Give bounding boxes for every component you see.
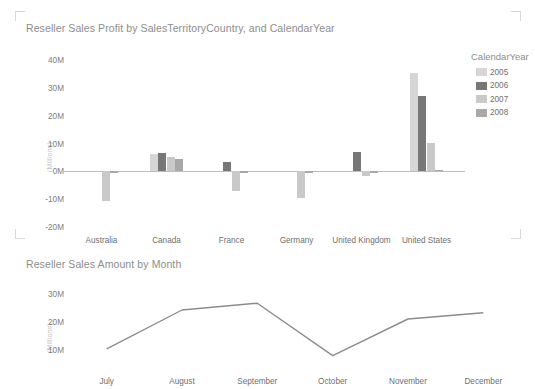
bar-united-kingdom-2008[interactable] xyxy=(370,171,378,173)
bar-canada-2007[interactable] xyxy=(167,157,175,171)
bar-france-2007[interactable] xyxy=(232,171,240,191)
bar-germany-2008[interactable] xyxy=(305,171,313,172)
legend-item-2007[interactable]: 2007 xyxy=(471,93,529,105)
bar-chart-legend: CalendarYear 2005200620072008 xyxy=(471,51,529,120)
line-chart-x-tick: October xyxy=(318,377,347,386)
bar-united-states-2008[interactable] xyxy=(435,170,443,172)
bar-france-2006[interactable] xyxy=(223,162,231,172)
bar-france-2008[interactable] xyxy=(240,171,248,172)
bar-united-kingdom-2006[interactable] xyxy=(353,152,361,171)
bar-united-states-2007[interactable] xyxy=(427,143,435,171)
line-chart-title: Reseller Sales Amount by Month xyxy=(26,258,181,270)
line-chart-y-tick: 10M xyxy=(48,345,64,354)
legend-swatch-icon-2005 xyxy=(476,68,487,76)
line-chart-series-path xyxy=(69,288,521,364)
bar-canada-2005[interactable] xyxy=(150,154,158,171)
bar-chart-x-tick: Germany xyxy=(280,236,314,245)
bar-chart-x-tick: United States xyxy=(402,236,451,245)
legend-item-2006[interactable]: 2006 xyxy=(471,80,529,92)
line-chart-y-tick: 20M xyxy=(48,317,64,326)
line-chart-x-tick: August xyxy=(169,377,195,386)
bar-chart-title: Reseller Sales Profit by SalesTerritoryC… xyxy=(26,22,335,34)
legend-swatch-icon-2007 xyxy=(476,95,487,103)
legend-title: CalendarYear xyxy=(471,51,529,62)
bar-chart-y-tick: 40M xyxy=(48,56,64,65)
line-chart-y-tick: 30M xyxy=(48,289,64,298)
bar-united-kingdom-2007[interactable] xyxy=(362,171,370,176)
bar-chart-y-tick: -10M xyxy=(45,195,64,204)
bar-germany-2007[interactable] xyxy=(297,171,305,198)
legend-item-2005[interactable]: 2005 xyxy=(471,66,529,78)
bar-chart-x-tick: United Kingdom xyxy=(332,236,390,245)
legend-item-label: 2006 xyxy=(490,81,508,90)
line-chart-x-tick: September xyxy=(237,377,277,386)
bar-chart-y-tick: 30M xyxy=(48,83,64,92)
legend-item-label: 2007 xyxy=(490,95,508,104)
legend-item-label: 2008 xyxy=(490,108,508,117)
bar-canada-2008[interactable] xyxy=(175,159,183,171)
bar-chart-visual[interactable]: Reseller Sales Profit by SalesTerritoryC… xyxy=(16,12,519,240)
bar-united-states-2006[interactable] xyxy=(418,96,426,171)
bar-chart-x-tick: Canada xyxy=(152,236,181,245)
bar-chart-y-tick: 10M xyxy=(48,139,64,148)
legend-item-label: 2005 xyxy=(490,68,508,77)
line-chart-x-tick: December xyxy=(464,377,502,386)
bar-australia-2007[interactable] xyxy=(102,171,110,200)
legend-item-2008[interactable]: 2008 xyxy=(471,107,529,119)
bar-chart-x-tick: France xyxy=(219,236,244,245)
line-series-reseller-sales-amount[interactable] xyxy=(107,303,484,355)
bar-canada-2006[interactable] xyxy=(158,153,166,171)
bar-chart-plot-area: 40M30M20M10M0M-10M-20MAustraliaCanadaFra… xyxy=(69,60,459,227)
bar-chart-y-tick: 20M xyxy=(48,111,64,120)
legend-swatch-icon-2006 xyxy=(476,82,487,90)
line-chart-x-tick: November xyxy=(389,377,427,386)
bar-united-states-2005[interactable] xyxy=(410,73,418,172)
line-chart-visual[interactable]: Reseller Sales Amount by Month (Millions… xyxy=(16,248,519,382)
bar-chart-y-tick: -20M xyxy=(45,223,64,232)
bar-australia-2008[interactable] xyxy=(110,171,118,173)
bar-chart-zero-axis-line xyxy=(63,171,465,172)
line-chart-x-tick: July xyxy=(99,377,114,386)
bar-chart-x-tick: Australia xyxy=(86,236,118,245)
line-chart-plot-area: 30M20M10MJulyAugustSeptemberOctoberNovem… xyxy=(69,288,521,364)
legend-swatch-icon-2008 xyxy=(476,109,487,117)
